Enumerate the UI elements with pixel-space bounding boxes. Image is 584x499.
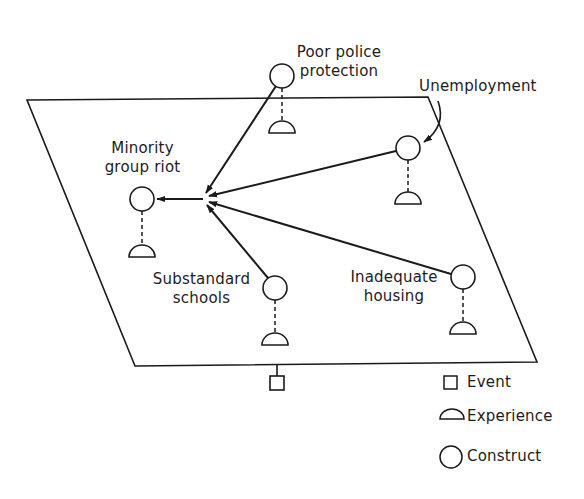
legend-event-square-icon — [444, 376, 457, 389]
label-riot-line1: Minority — [90, 139, 195, 158]
legend-symbols — [440, 376, 464, 468]
construct-circle-icon — [130, 187, 154, 211]
event-square-icon — [270, 376, 284, 390]
legend-experience-halfcircle-icon — [440, 409, 464, 419]
experience-halfcircle-icon — [262, 333, 288, 345]
label-unemployment: Unemployment — [419, 77, 537, 96]
label-police-line2: protection — [284, 62, 394, 81]
experience-halfcircle-icon — [450, 322, 476, 334]
label-unemployment-line1: Unemployment — [419, 77, 537, 96]
label-police-line1: Poor police — [284, 43, 394, 62]
node-riot — [129, 187, 155, 257]
label-housing-line1: Inadequate — [338, 268, 450, 287]
experience-halfcircle-icon — [129, 245, 155, 257]
edge-police-to-hub — [206, 86, 276, 193]
node-unemployment — [395, 136, 421, 204]
label-housing-line2: housing — [338, 287, 450, 306]
label-housing: Inadequate housing — [338, 268, 450, 306]
experience-halfcircle-icon — [395, 192, 421, 204]
label-schools: Substandard schools — [140, 270, 263, 308]
legend-experience-label: Experience — [467, 407, 553, 426]
edge-housing-to-hub — [209, 202, 451, 274]
construct-circle-icon — [263, 276, 287, 300]
legend-event-label: Event — [467, 373, 511, 392]
node-schools — [262, 276, 288, 345]
label-riot: Minority group riot — [90, 139, 195, 177]
experience-halfcircle-icon — [269, 121, 295, 133]
label-schools-line1: Substandard — [140, 270, 263, 289]
causal-edges — [157, 86, 451, 278]
event-marker — [270, 365, 284, 390]
label-police: Poor police protection — [284, 43, 394, 81]
edge-unemployment-to-hub — [209, 151, 396, 196]
label-schools-line2: schools — [140, 289, 263, 308]
construct-circle-icon — [451, 265, 475, 289]
label-riot-line2: group riot — [90, 158, 195, 177]
legend-construct-label: Construct — [467, 447, 541, 466]
legend-construct-circle-icon — [440, 446, 462, 468]
construct-circle-icon — [396, 136, 420, 160]
node-housing — [450, 265, 476, 334]
